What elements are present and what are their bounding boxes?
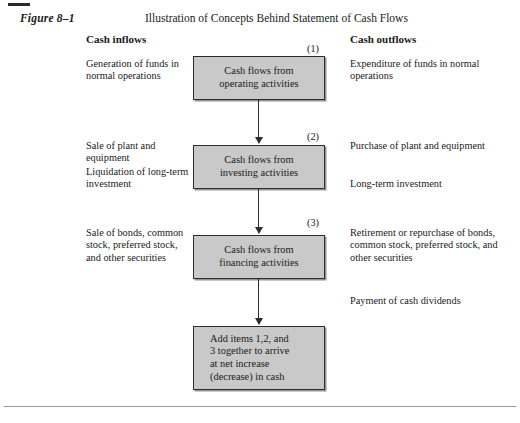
column-heading-cash-outflows: Cash outflows: [350, 33, 416, 45]
cash-outflow-note-4: Retirement or repurchase of bonds, commo…: [350, 227, 510, 264]
flow-arrow-2: [258, 189, 259, 233]
cash-inflow-note-3: Liquidation of long-term investment: [86, 166, 191, 191]
flow-box-financing-line-2: financing activities: [200, 257, 318, 270]
flow-box-total-line-2: 3 together to arrive: [200, 345, 318, 358]
figure-title: Illustration of Concepts Behind Statemen…: [145, 12, 408, 24]
cash-outflow-note-5: Payment of cash dividends: [350, 295, 510, 307]
cash-inflow-note-2: Sale of plant and equipment: [86, 140, 191, 165]
flow-box-operating-line-2: operating activities: [200, 78, 318, 91]
flow-box-financing-line-1: Cash flows from: [200, 244, 318, 257]
flow-box-investing-line-1: Cash flows from: [200, 154, 318, 167]
flow-box-investing: Cash flows frominvesting activities: [193, 145, 325, 189]
flow-box-total-line-1: Add items 1,2, and: [200, 333, 318, 346]
bottom-rule: [4, 406, 516, 407]
flow-arrow-3: [258, 279, 259, 324]
flow-box-total-line-4: (decrease) in cash: [200, 371, 318, 384]
figure-label: Figure 8–1: [20, 12, 75, 24]
column-heading-cash-inflows: Cash inflows: [86, 33, 146, 45]
cash-outflow-note-1: Expenditure of funds in normal operation…: [350, 58, 510, 83]
flow-box-financing: Cash flows fromfinancing activities: [193, 235, 325, 279]
flow-box-total: Add items 1,2, and3 together to arriveat…: [193, 326, 325, 390]
step-number-financing: (3): [307, 217, 319, 228]
flow-box-investing-line-2: investing activities: [200, 167, 318, 180]
step-number-investing: (2): [307, 131, 319, 142]
flow-box-operating-line-1: Cash flows from: [200, 65, 318, 78]
flow-box-operating: Cash flows fromoperating activities: [193, 56, 325, 100]
cash-inflow-note-4: Sale of bonds, common stock, preferred s…: [86, 227, 191, 264]
corner-mark: [8, 3, 30, 6]
step-number-operating: (1): [307, 43, 319, 54]
cash-outflow-note-2: Purchase of plant and equipment: [350, 140, 510, 152]
figure-page: Figure 8–1 Illustration of Concepts Behi…: [0, 0, 520, 423]
flow-box-total-line-3: at net increase: [200, 358, 318, 371]
cash-outflow-note-3: Long-term investment: [350, 178, 510, 190]
cash-inflow-note-1: Generation of funds in normal operations: [86, 58, 191, 83]
flow-arrow-1: [258, 100, 259, 143]
